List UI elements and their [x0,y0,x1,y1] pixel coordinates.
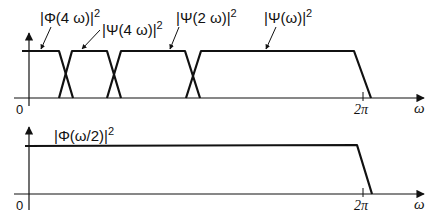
leader-psi4 [82,30,100,49]
top-omega-label: ω [414,100,425,116]
label-phi-w-half: |Φ(ω/2)|2 [54,125,114,144]
top-plot: |Φ(4 ω)|2 |Ψ(4 ω)|2 |Ψ(2 ω)|2 |Ψ(ω)|2 0 … [14,7,425,117]
wavelet-spectrum-diagram: |Φ(4 ω)|2 |Ψ(4 ω)|2 |Ψ(2 ω)|2 |Ψ(ω)|2 0 … [0,0,434,224]
curve-psi-w [186,51,371,98]
top-origin-label: 0 [16,102,23,117]
bottom-omega-label: ω [414,196,425,212]
label-phi-4w: |Φ(4 ω)|2 [40,7,100,26]
label-psi-4w: |Ψ(4 ω)|2 [102,19,163,38]
bottom-origin-label: 0 [16,198,23,213]
curve-psi-2w [107,51,200,98]
bottom-2pi-label: 2π [354,198,369,213]
label-psi-2w: |Ψ(2 ω)|2 [176,7,237,26]
leader-phi4 [41,27,51,49]
leader-psi2 [170,27,179,49]
curve-phi-w-half [25,145,372,194]
leader-psi1 [266,27,276,49]
bottom-plot: |Φ(ω/2)|2 0 2π ω [14,125,425,213]
top-2pi-label: 2π [354,102,369,117]
label-psi-w: |Ψ(ω)|2 [264,7,312,26]
curve-psi-4w [59,51,121,98]
